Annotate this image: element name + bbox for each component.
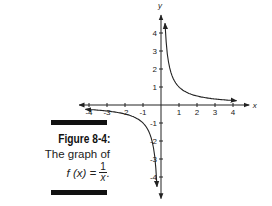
y-tick-label: 3 [153,47,158,56]
x-tick-label: -3 [103,108,111,117]
x-tick-label: -2 [121,108,129,117]
x-tick-label: 2 [195,108,200,117]
y-tick-label: -1 [150,119,158,128]
x-tick-label: 4 [231,108,236,117]
curve-negative-branch [85,109,157,187]
axes: xy-4-3-2-11234-4-3-2-11234 [79,1,258,199]
y-tick-label: 4 [153,29,158,38]
x-tick-label: 3 [213,108,218,117]
y-tick-label: -3 [150,155,158,164]
x-axis-label: x [252,101,258,110]
x-tick-label: -1 [139,108,147,117]
y-tick-label: 2 [153,65,158,74]
curve-positive-branch [165,23,237,101]
function-graph: xy-4-3-2-11234-4-3-2-11234 [0,0,272,206]
y-tick-label: 1 [153,83,158,92]
y-axis-label: y [157,1,163,10]
x-tick-label: 1 [177,108,182,117]
